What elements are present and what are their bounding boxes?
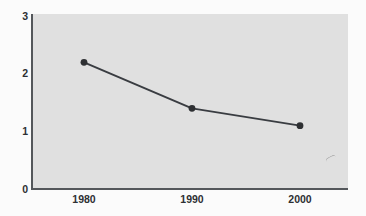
data-point-1990 — [189, 105, 196, 112]
data-point-1980 — [81, 59, 88, 66]
chart-plot-svg — [0, 0, 366, 216]
chart-figure: 3 2 1 0 1980 1990 2000 — [0, 0, 366, 216]
data-line — [84, 62, 300, 125]
data-markers — [81, 59, 304, 129]
data-point-2000 — [297, 122, 304, 129]
